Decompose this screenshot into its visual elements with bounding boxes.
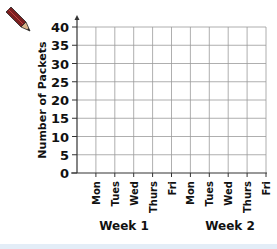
x-tick-label: Tues [110,181,121,207]
week-1-label: Week 1 [99,219,149,233]
grid-lines [77,27,266,173]
bottom-strip [0,244,277,249]
y-tick-label: 20 [51,93,69,108]
y-axis-label: Number of Packets [36,41,49,159]
blank-graph-chart: 0510152025303540 MonTuesWedThursFriMonTu… [0,0,277,249]
y-tick-label: 35 [51,38,69,53]
x-tick-label: Mon [91,181,102,205]
axes [71,15,267,173]
y-axis-ticks: 0510152025303540 [51,20,77,181]
y-tick-label: 15 [51,111,69,126]
y-tick-label: 40 [51,20,69,35]
x-tick-label: Wed [223,181,234,206]
x-tick-label: Fri [167,181,178,196]
x-axis-ticks: MonTuesWedThursFriMonTuesWedThursFri [91,173,272,213]
x-tick-label: Wed [129,181,140,206]
x-tick-label: Tues [204,181,215,207]
y-tick-label: 30 [51,57,69,72]
y-tick-label: 5 [60,148,69,163]
pencil-icon [6,7,30,31]
y-tick-label: 0 [60,166,69,181]
week-2-label: Week 2 [205,219,255,233]
x-tick-label: Thurs [242,181,253,213]
x-tick-label: Mon [185,181,196,205]
chart-canvas: 0510152025303540 MonTuesWedThursFriMonTu… [0,0,277,249]
x-tick-label: Thurs [148,181,159,213]
x-tick-label: Fri [261,181,272,196]
y-tick-label: 25 [51,75,69,90]
y-tick-label: 10 [51,130,69,145]
